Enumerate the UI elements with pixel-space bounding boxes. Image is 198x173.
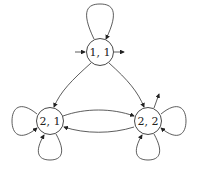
self-loop-22-right <box>161 107 186 136</box>
state-diagram: 1, 1 2, 1 2, 2 <box>0 0 198 173</box>
node-2-1-label: 2, 1 <box>40 115 61 128</box>
self-loop-21-left <box>12 107 37 136</box>
node-2-2-label: 2, 2 <box>138 115 159 128</box>
edge-22-21 <box>64 127 134 132</box>
node-1-1-label: 1, 1 <box>90 46 111 59</box>
self-loop-11 <box>87 4 114 39</box>
self-loop-21-bottom <box>38 134 61 160</box>
edge-11-22 <box>109 63 144 107</box>
self-loop-22-bottom <box>136 134 159 160</box>
edge-21-22 <box>63 110 134 116</box>
edge-11-21 <box>54 63 91 107</box>
final-arrow-22 <box>154 94 159 108</box>
